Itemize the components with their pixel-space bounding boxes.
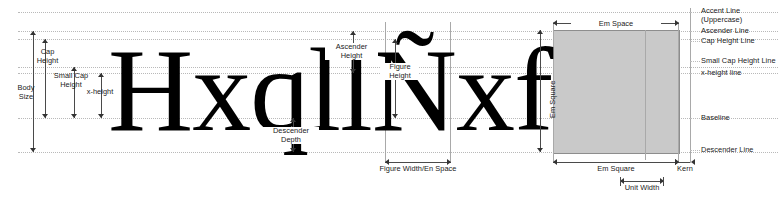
leader-small-cap-height-line (690, 61, 700, 62)
label-cap-height-line2: Height (31, 57, 64, 66)
leader-ascender-line (690, 31, 700, 32)
label-ascender-line: Ascender Line (701, 27, 749, 36)
label-em-square-vertical: Em Square (549, 81, 558, 118)
leader-descender-line (690, 150, 700, 151)
label-figure-width-en-space: Figure Width/En Space (376, 165, 460, 174)
leader-accent-line (690, 12, 700, 13)
em-square-internal-divider (645, 30, 646, 160)
label-figure-height: Figure Height (381, 63, 419, 80)
label-descender-depth: Descender Depth (263, 127, 319, 144)
label-baseline: Baseline (701, 114, 730, 123)
label-unit-width: Unit Width (609, 184, 675, 193)
label-body-size-line2: Size (13, 93, 39, 102)
leader-x-height-line (690, 73, 700, 74)
label-ascender-height-line2: Height (325, 52, 378, 61)
label-small-cap-height-line: Small Cap Height Line (701, 57, 776, 66)
leader-cap-height-line (690, 41, 700, 42)
dim-em-square-vertical (536, 30, 545, 152)
label-body-size: Body Size (13, 84, 39, 101)
em-square-box (553, 30, 680, 154)
label-cap-height: Cap Height (31, 48, 64, 65)
label-accent-line: Accent Line (Uppercase) (701, 7, 742, 24)
guide-accent-line (18, 12, 778, 13)
label-accent-line-sub: (Uppercase) (701, 16, 742, 25)
vline-em-right (678, 22, 679, 163)
label-ascender-height: Ascender Height (325, 43, 378, 60)
label-em-space: Em Space (571, 20, 661, 29)
label-x-height-line: x-height line (701, 69, 742, 78)
label-x-height: x-height (82, 88, 118, 97)
leader-baseline (690, 118, 700, 119)
label-descender-line: Descender Line (701, 146, 753, 155)
label-x-height-line1: x-height (82, 88, 118, 97)
typography-diagram: HxqllÑxf Body Size Cap Height Small Cap … (0, 0, 784, 200)
label-kern: Kern (669, 165, 701, 174)
label-cap-height-line: Cap Height Line (701, 37, 755, 46)
label-descender-depth-line2: Depth (263, 136, 319, 145)
label-figure-height-line2: Height (381, 72, 419, 81)
label-em-square-bottom: Em Square (578, 165, 654, 174)
